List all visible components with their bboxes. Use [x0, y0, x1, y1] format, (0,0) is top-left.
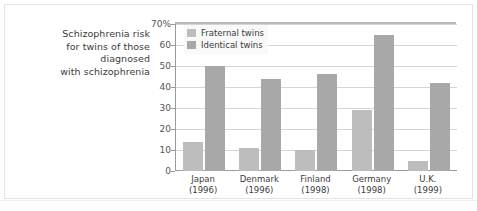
x-axis-category-label: Japan(1996) [175, 174, 231, 196]
bar-group [401, 24, 457, 171]
category-year: (1998) [287, 185, 343, 196]
y-axis-tick-label: 0 [131, 166, 171, 176]
chart-legend: Fraternal twins Identical twins [184, 25, 268, 54]
y-axis-tick-mark [171, 66, 175, 67]
category-year: (1999) [400, 185, 456, 196]
legend-swatch-fraternal-icon [187, 29, 196, 37]
y-axis-tick-mark [171, 45, 175, 46]
y-axis-tick-labels: 010203040506070% [128, 24, 171, 171]
x-axis-tick-labels: Japan(1996)Denmark(1996)Finland(1998)Ger… [175, 174, 456, 200]
x-axis-category-label: Finland(1998) [287, 174, 343, 196]
category-name: U.K. [400, 174, 456, 185]
chart-figure: Schizophrenia risk for twins of those di… [0, 0, 477, 211]
y-axis-tick-mark [171, 108, 175, 109]
bar-identical[interactable] [374, 35, 394, 172]
legend-label-fraternal: Fraternal twins [201, 28, 264, 38]
y-axis-tick-mark [171, 150, 175, 151]
legend-swatch-identical-icon [187, 41, 196, 49]
bar-fraternal[interactable] [239, 148, 259, 171]
bar-fraternal[interactable] [408, 161, 428, 172]
bar-identical[interactable] [205, 66, 225, 171]
y-axis-tick-label: 40 [131, 82, 171, 92]
legend-item-identical[interactable]: Identical twins [187, 39, 264, 50]
y-axis-tick-mark [171, 171, 175, 172]
y-axis-tick-label: 30 [131, 103, 171, 113]
category-name: Germany [344, 174, 400, 185]
figure-bottom-strip [0, 200, 477, 211]
x-axis-category-label: Germany(1998) [344, 174, 400, 196]
category-year: (1996) [175, 185, 231, 196]
bar-identical[interactable] [317, 74, 337, 171]
category-name: Japan [175, 174, 231, 185]
y-axis-tick-label: 20 [131, 124, 171, 134]
bar-group [345, 24, 401, 171]
bar-identical[interactable] [430, 83, 450, 171]
y-axis-tick-label: 60 [131, 40, 171, 50]
legend-label-identical: Identical twins [201, 40, 263, 50]
bar-identical[interactable] [261, 79, 281, 171]
bar-fraternal[interactable] [295, 150, 315, 171]
y-axis-tick-label: 10 [131, 145, 171, 155]
x-axis-category-label: Denmark(1996) [231, 174, 287, 196]
bar-group [288, 24, 344, 171]
legend-item-fraternal[interactable]: Fraternal twins [187, 27, 264, 38]
category-name: Denmark [231, 174, 287, 185]
category-year: (1996) [231, 185, 287, 196]
y-axis-tick-mark [171, 87, 175, 88]
y-axis-tick-label: 70% [131, 19, 171, 29]
category-name: Finland [287, 174, 343, 185]
y-axis-tick-label: 50 [131, 61, 171, 71]
category-year: (1998) [344, 185, 400, 196]
y-axis-tick-mark [171, 129, 175, 130]
x-axis-category-label: U.K.(1999) [400, 174, 456, 196]
bar-fraternal[interactable] [183, 142, 203, 171]
y-axis-tick-mark [171, 24, 175, 25]
bar-fraternal[interactable] [352, 110, 372, 171]
